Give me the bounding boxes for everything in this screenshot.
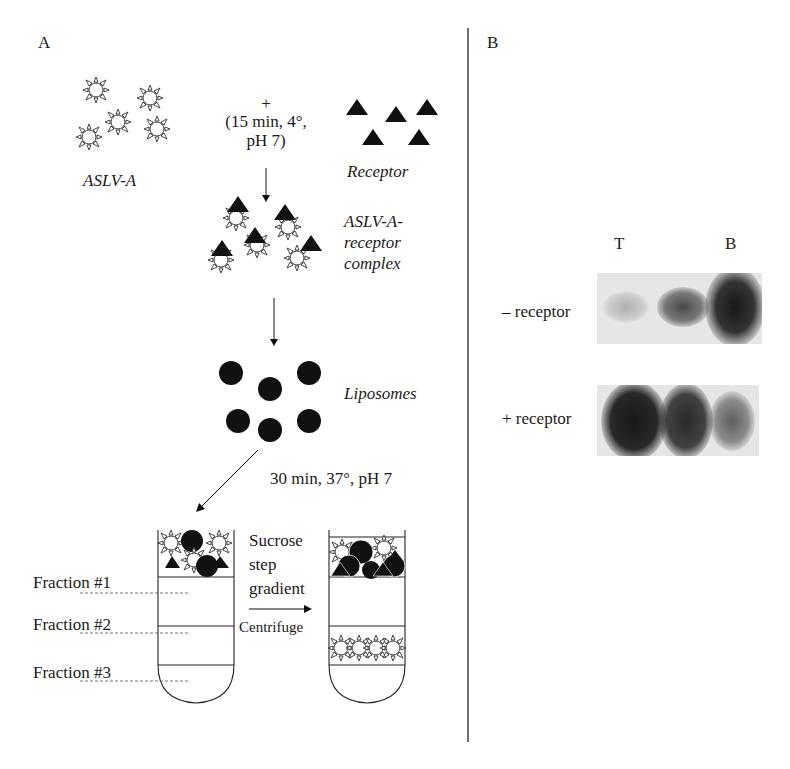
fraction-3-label: Fraction #3	[33, 663, 111, 683]
band-lane3	[705, 273, 762, 344]
band-lane2	[659, 385, 713, 456]
fraction-1-label: Fraction #1	[33, 573, 111, 593]
gel-strip-minus-receptor	[597, 273, 762, 344]
receptor-triangles-icon	[346, 99, 438, 145]
lane-label-bottom: B	[725, 234, 736, 254]
virus-receptor-complex-icon	[208, 196, 322, 273]
lane-label-top: T	[614, 234, 624, 254]
tube-before-contents	[158, 530, 232, 577]
incubation-conditions-line1: (15 min, 4°,	[191, 112, 341, 132]
fusion-conditions: 30 min, 37°, pH 7	[270, 469, 392, 489]
plus-receptor-label: + receptor	[502, 409, 572, 429]
virus-particles-icon	[76, 77, 170, 150]
complex-label-line3: complex	[344, 254, 401, 274]
band-lane1	[603, 291, 649, 323]
fraction-2-label: Fraction #2	[33, 615, 111, 635]
complex-label-line1: ASLV-A-	[344, 212, 403, 232]
gel-strip-plus-receptor	[597, 385, 759, 456]
panel-b-label: B	[487, 33, 498, 53]
figure: A ASLV-A + (15 min, 4°, pH 7) Receptor A…	[0, 0, 790, 769]
centrifuge-label: Centrifuge	[239, 619, 303, 636]
virus-label: ASLV-A	[83, 171, 136, 191]
arrow-to-tube	[200, 450, 258, 508]
tube-after-top-contents	[329, 535, 405, 579]
liposomes-label: Liposomes	[344, 384, 417, 404]
band-lane2	[657, 287, 709, 327]
band-lane3	[709, 391, 755, 451]
plus-sign: +	[211, 94, 321, 114]
incubation-conditions-line2: pH 7)	[211, 131, 321, 151]
panel-a-label: A	[38, 33, 50, 53]
complex-label-line2: receptor	[344, 233, 401, 253]
gradient-label-line3: gradient	[249, 579, 305, 599]
gradient-label-line2: step	[249, 555, 276, 575]
tube-after-pellet-virus	[328, 635, 406, 661]
receptor-label: Receptor	[347, 162, 408, 182]
minus-receptor-label: – receptor	[502, 302, 570, 322]
band-lane1	[601, 385, 667, 456]
liposomes-icon	[219, 361, 321, 442]
gradient-label-line1: Sucrose	[249, 531, 303, 551]
